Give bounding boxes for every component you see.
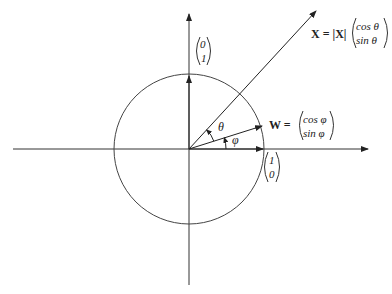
svg-text:cos φ: cos φ [303, 113, 327, 125]
phi-arc [224, 138, 226, 149]
phi-label: φ [232, 133, 239, 147]
theta-arc [207, 130, 214, 141]
svg-text:0: 0 [200, 38, 206, 50]
svg-text:sin θ: sin θ [356, 34, 378, 46]
x-label: X = |X| cos θ sin θ [311, 18, 388, 48]
x-vector [189, 11, 316, 149]
svg-text:1: 1 [269, 154, 275, 166]
svg-text:sin φ: sin φ [303, 127, 325, 139]
unit-circle-diagram: φ θ 0 1 1 0 W = cos φ sin φ X = |X| cos … [0, 0, 392, 294]
svg-text:W =: W = [269, 118, 291, 132]
svg-text:cos θ: cos θ [356, 20, 379, 32]
e2-label: 0 1 [197, 37, 211, 65]
svg-text:0: 0 [269, 168, 275, 180]
theta-label: θ [218, 120, 224, 134]
e1-label: 1 0 [265, 152, 280, 182]
svg-text:X = |X|: X = |X| [311, 27, 346, 41]
svg-text:1: 1 [201, 52, 207, 64]
w-label: W = cos φ sin φ [269, 111, 334, 140]
